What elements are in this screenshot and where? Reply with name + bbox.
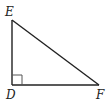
vertex-label-d: D	[5, 88, 16, 101]
right-angle-marker	[12, 75, 22, 85]
vertex-label-e: E	[4, 5, 14, 19]
vertex-label-f: F	[95, 88, 105, 101]
triangle-diagram: E D F	[0, 0, 111, 101]
side-ef	[12, 20, 99, 85]
